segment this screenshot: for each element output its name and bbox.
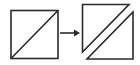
upper-left-triangle (83, 5, 130, 53)
diagram-canvas: Square split by diagonal Two separated t… (0, 0, 140, 65)
arrow-head-icon (74, 30, 80, 37)
transform-arrow (60, 30, 80, 37)
square-diagonal (11, 11, 58, 59)
diagram-svg (0, 0, 140, 65)
source-square (11, 11, 58, 59)
result-triangles (83, 5, 134, 60)
lower-right-triangle (87, 12, 133, 59)
